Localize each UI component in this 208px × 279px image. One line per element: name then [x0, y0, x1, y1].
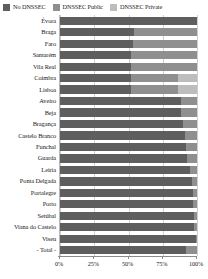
bar-row — [60, 17, 197, 25]
bar-row — [60, 108, 197, 116]
bar-row — [60, 235, 197, 243]
x-tick-mark — [162, 256, 163, 259]
y-axis-labels: ÉvoraBragaFaroSantarémVila RealCoimbraLi… — [0, 15, 58, 256]
legend-label: No DNSSEC — [13, 4, 46, 10]
bar-segment — [60, 223, 194, 231]
chart-legend: No DNSSECDNSSEC PublicDNSSEC Private — [0, 0, 208, 15]
bar-row — [60, 200, 197, 208]
y-axis-label: Faro — [45, 39, 56, 49]
plot-area: ÉvoraBragaFaroSantarémVila RealCoimbraLi… — [0, 15, 208, 256]
x-tick-label: 50% — [122, 260, 133, 267]
x-tick-mark — [93, 256, 94, 259]
y-axis-label: Leiria — [41, 165, 56, 175]
y-axis-label: Setúbal — [38, 211, 56, 221]
bar-segment — [187, 154, 197, 162]
bar-row — [60, 51, 197, 59]
y-axis-label: Beja — [45, 108, 56, 118]
y-axis-label: - Total - — [37, 245, 56, 255]
bar-row — [60, 246, 197, 254]
bar-segment — [60, 28, 134, 36]
y-axis-label: Aveiro — [39, 96, 56, 106]
bar-segment — [60, 200, 193, 208]
y-axis-label: Ponta Delgada — [20, 176, 56, 186]
square-swatch-icon — [53, 4, 60, 11]
bar-row — [60, 63, 197, 71]
bar-segment — [60, 235, 196, 243]
bar-segment — [60, 97, 181, 105]
y-axis-label: Viseu — [42, 234, 56, 244]
bar-segment — [183, 120, 197, 128]
bar-segment — [60, 177, 192, 185]
bar-segment — [194, 223, 197, 231]
bar-row — [60, 212, 197, 220]
x-tick-label: 0% — [55, 260, 63, 267]
legend-item: DNSSEC Private — [110, 4, 162, 11]
y-axis-label: Braga — [41, 27, 56, 37]
x-tick-label: 75% — [156, 260, 167, 267]
y-axis-label: Guarda — [38, 153, 56, 163]
bar-segment — [60, 166, 190, 174]
bar-segment — [186, 143, 197, 151]
x-tick-mark — [128, 256, 129, 259]
bar-row — [60, 143, 197, 151]
bar-row — [60, 40, 197, 48]
bar-segment — [60, 154, 187, 162]
bar-segment — [60, 246, 186, 254]
legend-label: DNSSEC Private — [120, 4, 162, 10]
bar-row — [60, 166, 197, 174]
y-axis-label: Coimbra — [34, 73, 56, 83]
bar-segment — [178, 74, 197, 82]
bar-segment — [60, 40, 133, 48]
legend-item: DNSSEC Public — [53, 4, 104, 11]
bar-segment — [181, 97, 197, 105]
bar-row — [60, 189, 197, 197]
y-axis-label: Funchal — [36, 142, 56, 152]
square-swatch-icon — [110, 4, 117, 11]
x-axis: 0%25%50%75%100% — [59, 256, 196, 279]
square-swatch-icon — [3, 4, 10, 11]
bar-segment — [185, 131, 197, 139]
bar-segment — [193, 189, 197, 197]
gridline — [197, 15, 198, 256]
x-tick-mark — [196, 256, 197, 259]
y-axis-label: Lisboa — [39, 85, 56, 95]
bar-segment — [60, 120, 183, 128]
y-axis-label: Évora — [41, 16, 56, 26]
bar-segment — [131, 51, 197, 59]
legend-item: No DNSSEC — [3, 4, 46, 11]
bar-segment — [133, 40, 197, 48]
bar-row — [60, 223, 197, 231]
y-axis-label: Porto — [43, 199, 56, 209]
bar-segment — [60, 131, 185, 139]
bar-segment — [192, 177, 197, 185]
bar-segment — [178, 85, 197, 93]
bar-segment — [194, 212, 197, 220]
bar-segment — [60, 74, 131, 82]
bar-row — [60, 97, 197, 105]
bar-segment — [60, 17, 197, 25]
bar-row — [60, 85, 197, 93]
bars-container — [59, 15, 197, 256]
bar-segment — [186, 246, 197, 254]
bar-segment — [196, 235, 197, 243]
y-axis-label: Portalegre — [31, 188, 56, 198]
legend-label: DNSSEC Public — [63, 4, 104, 10]
y-axis-label: Vila Real — [33, 62, 56, 72]
y-axis-label: Santarém — [33, 50, 56, 60]
bar-segment — [60, 108, 181, 116]
bar-row — [60, 154, 197, 162]
bar-segment — [60, 51, 131, 59]
bar-segment — [60, 189, 193, 197]
bar-row — [60, 120, 197, 128]
bar-segment — [60, 143, 186, 151]
bar-row — [60, 131, 197, 139]
bar-segment — [193, 200, 197, 208]
bar-segment — [131, 74, 178, 82]
y-axis-label: Castelo Branco — [18, 131, 56, 141]
y-axis-label: Bragança — [33, 119, 56, 129]
x-tick-label: 100% — [189, 260, 203, 267]
x-tick-label: 25% — [88, 260, 99, 267]
bar-segment — [60, 85, 131, 93]
y-axis-label: Viana do Castelo — [14, 222, 56, 232]
bar-segment — [131, 85, 178, 93]
